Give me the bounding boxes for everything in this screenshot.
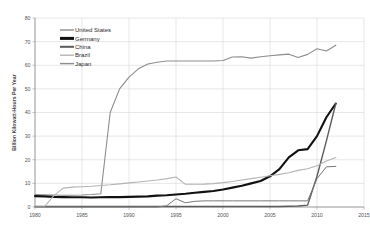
- chart-container: 0102030405060708019801985199019952000200…: [0, 0, 370, 239]
- x-axis-tick-label: 1995: [170, 212, 182, 218]
- x-axis-tick-label: 2005: [264, 212, 276, 218]
- legend-label-brazil: Brazil: [75, 52, 90, 58]
- y-axis-tick-label: 10: [25, 180, 31, 186]
- x-axis-tick-label: 2010: [311, 212, 323, 218]
- y-axis-tick-label: 80: [25, 15, 31, 21]
- x-axis-tick-label: 2000: [217, 212, 229, 218]
- y-axis-tick-label: 60: [25, 62, 31, 68]
- x-axis-tick-label: 2015: [358, 212, 370, 218]
- legend-label-china: China: [75, 44, 91, 50]
- legend-label-germany: Germany: [75, 36, 100, 42]
- y-axis-tick-label: 30: [25, 133, 31, 139]
- legend-label-united-states: United States: [75, 27, 111, 33]
- y-axis-title: Billion Kilowatt-Hours Per Year: [11, 74, 17, 150]
- y-axis-tick-label: 50: [25, 86, 31, 92]
- line-chart: 0102030405060708019801985199019952000200…: [0, 0, 370, 239]
- x-axis-tick-label: 1990: [123, 212, 135, 218]
- y-axis-tick-label: 40: [25, 109, 31, 115]
- y-axis-tick-label: 70: [25, 39, 31, 45]
- x-axis-tick-label: 1985: [76, 212, 88, 218]
- legend-label-japan: Japan: [75, 61, 91, 67]
- x-axis-tick-label: 1980: [29, 212, 41, 218]
- y-axis-tick-label: 0: [28, 204, 31, 210]
- y-axis-tick-label: 20: [25, 157, 31, 163]
